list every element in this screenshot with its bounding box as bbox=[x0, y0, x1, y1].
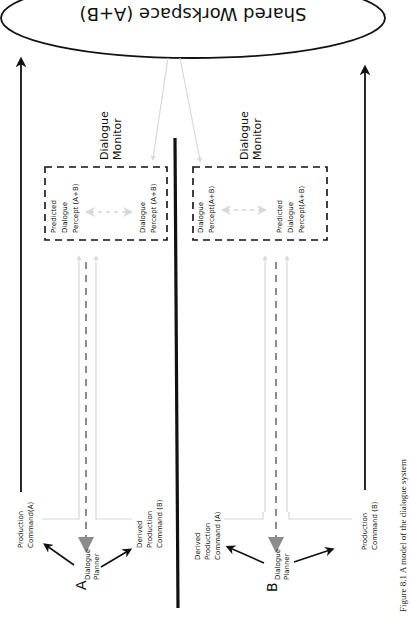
derived-b-1: Derived bbox=[194, 533, 202, 560]
connector-a-left bbox=[42, 512, 79, 519]
shared-workspace: Shared Workspace (A+B) bbox=[1, 0, 385, 58]
planner-b-to-derived bbox=[230, 548, 264, 563]
connector-b-right bbox=[289, 512, 352, 519]
derived-b-3: Command (A) bbox=[214, 511, 222, 560]
predicted-percept-a-2: Dialogue bbox=[61, 202, 69, 233]
predicted-percept-b-3: Percept(A+B) bbox=[298, 185, 306, 233]
monitor-b-label-1: Dialogue bbox=[238, 111, 251, 160]
monitor-a-label-1: Dialogue bbox=[98, 111, 111, 160]
planner-a-to-derived bbox=[101, 551, 128, 567]
workspace-to-monitor-b-arrow bbox=[180, 58, 200, 160]
derived-a-3: Command (B) bbox=[156, 499, 164, 548]
percept-b-2: Percept(A+B) bbox=[208, 185, 216, 233]
planner-b-to-production bbox=[294, 550, 330, 562]
connector-a-right bbox=[96, 512, 132, 519]
connector-b-left bbox=[224, 512, 263, 519]
production-b-2: Command (B) bbox=[371, 501, 379, 550]
planner-b-1: Dialogue bbox=[274, 549, 282, 580]
production-b-1: Production bbox=[361, 513, 369, 550]
planner-a-2: Planner bbox=[93, 553, 101, 580]
dialogue-system-diagram: Shared Workspace (A+B) Dialogue Monitor … bbox=[0, 0, 410, 618]
derived-b-2: Production bbox=[204, 523, 212, 560]
figure-caption: Figure 8.1 A model of the dialogue syste… bbox=[398, 459, 408, 612]
percept-a-2: Percept (A+B) bbox=[150, 183, 158, 233]
planner-a-1: Dialogue bbox=[84, 549, 92, 580]
planner-a-to-production bbox=[47, 546, 74, 565]
predicted-percept-b-1: Predicted bbox=[276, 200, 284, 233]
monitor-a-label-2: Monitor bbox=[111, 118, 124, 160]
agent-divider bbox=[175, 138, 178, 608]
production-a-1: Production bbox=[17, 511, 25, 548]
agent-b: Dialogue Monitor Dialogue Percept(A+B) P… bbox=[193, 111, 379, 592]
predicted-percept-a-1: Predicted bbox=[50, 200, 58, 233]
production-a-2: Command(A) bbox=[27, 502, 35, 548]
monitor-b-label-2: Monitor bbox=[251, 118, 264, 160]
predicted-percept-b-2: Dialogue bbox=[287, 202, 295, 233]
predicted-percept-a-3: Percept (A+B) bbox=[72, 183, 80, 233]
workspace-to-monitor-a-arrow bbox=[153, 58, 168, 158]
percept-a-1: Dialogue bbox=[139, 202, 147, 233]
derived-a-1: Derived bbox=[136, 521, 144, 548]
agent-b-id: B bbox=[264, 582, 280, 592]
agent-a-id: A bbox=[73, 580, 89, 590]
derived-a-2: Production bbox=[146, 511, 154, 548]
planner-b-2: Planner bbox=[283, 553, 291, 580]
agent-a: Dialogue Monitor Predicted Dialogue Perc… bbox=[17, 111, 167, 590]
shared-workspace-label: Shared Workspace (A+B) bbox=[80, 4, 307, 25]
percept-b-1: Dialogue bbox=[197, 202, 205, 233]
